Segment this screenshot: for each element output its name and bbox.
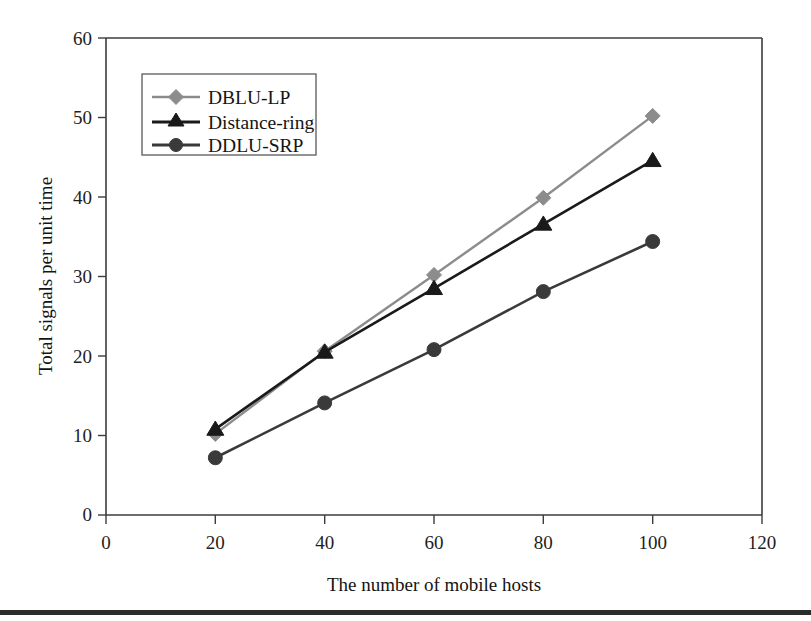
x-tick-label-60: 60	[425, 532, 444, 553]
legend-label-dblu-lp: DBLU-LP	[208, 87, 290, 108]
circle-marker-icon	[536, 285, 550, 299]
y-tick-label-60: 60	[73, 28, 92, 49]
x-axis-title: The number of mobile hosts	[327, 574, 541, 595]
circle-marker-icon	[318, 396, 332, 410]
y-tick-label-30: 30	[73, 266, 92, 287]
x-tick-label-20: 20	[206, 532, 225, 553]
legend-label-distance-ring: Distance-ring	[208, 112, 314, 133]
circle-marker-icon	[427, 343, 441, 357]
x-tick-label-0: 0	[101, 532, 111, 553]
triangle-marker-icon	[535, 216, 552, 230]
legend-label-ddlu-srp: DDLU-SRP	[208, 135, 304, 156]
chart-legend: DBLU-LP Distance-ring DDLU-SRP	[142, 74, 316, 156]
x-tick-label-80: 80	[534, 532, 553, 553]
y-tick-label-0: 0	[83, 504, 93, 525]
footer-rule	[0, 610, 811, 615]
y-tick-label-10: 10	[73, 425, 92, 446]
circle-marker-icon	[646, 235, 660, 249]
series-distance-ring	[207, 152, 661, 435]
y-axis-title: Total signals per unit time	[35, 177, 56, 375]
line-chart: 0 10 20 30 40 50 60 0 20 40 60 80 100 12…	[0, 0, 811, 621]
series-dblu-lp	[208, 108, 660, 441]
y-tick-label-20: 20	[73, 346, 92, 367]
triangle-marker-icon	[644, 152, 661, 166]
x-tick-label-100: 100	[638, 532, 667, 553]
circle-marker-icon	[208, 451, 222, 465]
triangle-marker-icon	[426, 280, 443, 294]
series-layer	[207, 108, 661, 464]
y-tick-label-40: 40	[73, 187, 92, 208]
figure-root: 0 10 20 30 40 50 60 0 20 40 60 80 100 12…	[0, 0, 811, 621]
y-tick-label-50: 50	[73, 107, 92, 128]
x-tick-label-40: 40	[315, 532, 334, 553]
circle-marker-icon	[170, 139, 183, 152]
x-tick-label-120: 120	[748, 532, 777, 553]
y-axis-ticks	[98, 38, 106, 515]
x-axis-ticks	[106, 515, 762, 524]
